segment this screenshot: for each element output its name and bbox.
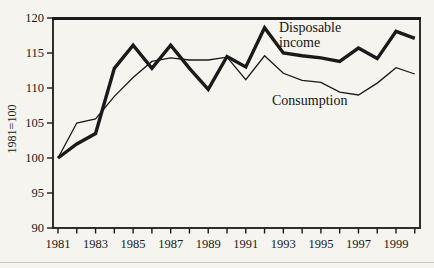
y-tick-label: 90 xyxy=(32,221,45,235)
consumption-line xyxy=(58,56,415,158)
y-axis-title: 1981=100 xyxy=(5,89,21,169)
x-tick-label: 1983 xyxy=(83,237,108,251)
x-tick-label: 1991 xyxy=(233,237,258,251)
line-plot-canvas: 9095100105110115120198119831985198719891… xyxy=(0,0,434,268)
x-tick-label: 1997 xyxy=(346,237,371,251)
series-label-disposable-line1: Disposable xyxy=(279,20,341,35)
chart: 9095100105110115120198119831985198719891… xyxy=(0,0,434,268)
series-label-consumption: Consumption xyxy=(272,93,347,108)
x-tick-label: 1985 xyxy=(121,237,146,251)
y-tick-label: 100 xyxy=(25,151,44,165)
x-tick-label: 1999 xyxy=(384,237,409,251)
series-label-disposable-income: Disposable income xyxy=(279,20,341,50)
y-tick-label: 95 xyxy=(32,186,45,200)
series-label-disposable-line2: income xyxy=(279,35,341,50)
x-tick-label: 1981 xyxy=(46,237,71,251)
x-tick-label: 1987 xyxy=(158,237,183,251)
y-tick-label: 115 xyxy=(26,46,44,60)
x-tick-label: 1993 xyxy=(271,237,296,251)
plot-frame xyxy=(53,18,420,228)
x-tick-label: 1995 xyxy=(308,237,333,251)
x-tick-label: 1989 xyxy=(196,237,221,251)
y-tick-label: 120 xyxy=(25,11,44,25)
y-tick-label: 110 xyxy=(26,81,44,95)
page-rule xyxy=(0,262,434,263)
y-tick-label: 105 xyxy=(25,116,44,130)
